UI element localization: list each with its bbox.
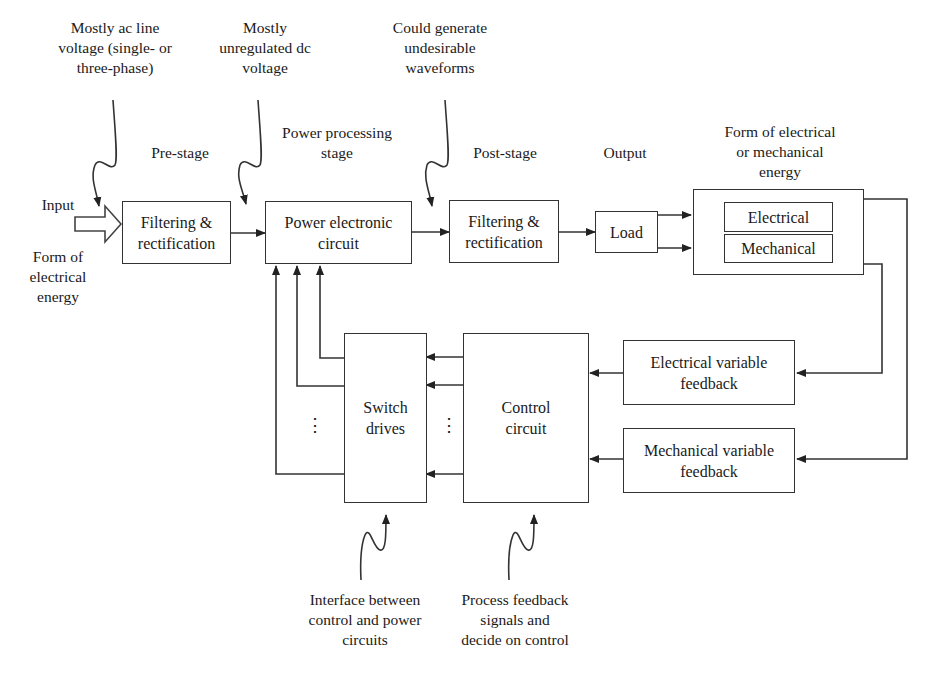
- input-label: Input: [28, 195, 88, 215]
- block-label: rectification: [138, 233, 215, 254]
- stage-label-line: energy: [710, 162, 850, 182]
- annotation-unregulated-dc: Mostly unregulated dc voltage: [200, 18, 330, 78]
- post-filtering-rectification-block: Filtering &rectification: [449, 200, 559, 263]
- annotation-line: voltage: [200, 58, 330, 78]
- stage-label-output-form: Form of electrical or mechanical energy: [710, 122, 850, 182]
- input-form-label: Form of electrical energy: [18, 247, 98, 307]
- block-label: Electrical variable: [651, 352, 768, 373]
- annotation-interface: Interface between control and power circ…: [290, 590, 440, 650]
- block-label: Filtering &: [138, 212, 215, 233]
- ellipsis-icon: ⋮: [306, 421, 316, 429]
- annotation-line: Interface between: [290, 590, 440, 610]
- mechanical-variable-feedback-block: Mechanical variablefeedback: [623, 428, 795, 493]
- block-label: drives: [363, 418, 407, 439]
- input-form-line: Form of: [18, 247, 98, 267]
- stage-label-line: stage: [272, 143, 402, 163]
- annotation-ac-line-voltage: Mostly ac line voltage (single- or three…: [40, 18, 190, 78]
- annotation-line: Mostly: [200, 18, 330, 38]
- annotation-line: circuits: [290, 630, 440, 650]
- block-label: Power electronic: [285, 212, 393, 233]
- annotation-line: unregulated dc: [200, 38, 330, 58]
- annotation-line: Process feedback: [445, 590, 585, 610]
- block-label: feedback: [644, 461, 774, 482]
- stage-label-line: or mechanical: [710, 142, 850, 162]
- input-form-line: electrical: [18, 267, 98, 287]
- annotation-line: decide on control: [445, 630, 585, 650]
- block-label: Filtering &: [465, 211, 542, 232]
- annotation-line: signals and: [445, 610, 585, 630]
- ellipsis-icon: ⋮: [440, 421, 450, 429]
- block-label: circuit: [285, 233, 393, 254]
- annotation-line: three-phase): [40, 58, 190, 78]
- annotation-line: waveforms: [375, 58, 505, 78]
- annotation-process-feedback: Process feedback signals and decide on c…: [445, 590, 585, 650]
- stage-label-post-stage: Post-stage: [465, 143, 545, 163]
- annotation-line: control and power: [290, 610, 440, 630]
- annotation-line: Mostly ac line: [40, 18, 190, 38]
- electrical-variable-feedback-block: Electrical variablefeedback: [623, 340, 795, 405]
- stage-label-line: Power processing: [272, 123, 402, 143]
- pre-filtering-rectification-block: Filtering &rectification: [122, 201, 231, 264]
- block-label: rectification: [465, 232, 542, 253]
- annotation-line: Could generate: [375, 18, 505, 38]
- stage-label-power-processing: Power processing stage: [272, 123, 402, 163]
- energy-mechanical-box: Mechanical: [724, 234, 833, 263]
- energy-electrical-box: Electrical: [724, 202, 833, 232]
- load-block: Load: [595, 211, 658, 253]
- annotation-undesirable-waveforms: Could generate undesirable waveforms: [375, 18, 505, 78]
- annotation-line: voltage (single- or: [40, 38, 190, 58]
- switch-drives-block: Switchdrives: [344, 333, 427, 503]
- block-label: Mechanical variable: [644, 440, 774, 461]
- input-form-line: energy: [18, 287, 98, 307]
- power-electronic-circuit-block: Power electroniccircuit: [265, 201, 412, 264]
- block-label: Control: [502, 397, 551, 418]
- stage-label-line: Form of electrical: [710, 122, 850, 142]
- block-label: circuit: [502, 418, 551, 439]
- block-label: Switch: [363, 397, 407, 418]
- annotation-line: undesirable: [375, 38, 505, 58]
- block-label: feedback: [651, 373, 768, 394]
- stage-label-pre-stage: Pre-stage: [140, 143, 220, 163]
- stage-label-output: Output: [595, 143, 655, 163]
- control-circuit-block: Controlcircuit: [463, 333, 589, 503]
